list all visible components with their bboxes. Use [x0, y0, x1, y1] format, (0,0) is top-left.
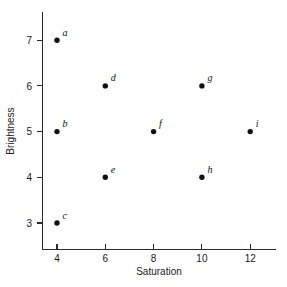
data-point — [54, 129, 59, 134]
data-point — [199, 83, 204, 88]
y-tick-label: 7 — [26, 35, 32, 46]
data-point — [248, 129, 253, 134]
y-axis-title: Brightness — [5, 107, 16, 154]
plot-canvas: 34567 4681012 abcdefghi Saturation Brigh… — [0, 0, 287, 287]
data-point-label: g — [207, 72, 212, 83]
data-point-label: c — [63, 210, 68, 221]
x-tick-label: 10 — [196, 253, 208, 264]
data-point — [199, 175, 204, 180]
y-tick-label: 5 — [26, 126, 32, 137]
data-point-label: h — [207, 164, 212, 175]
scatter-plot-figure: 34567 4681012 abcdefghi Saturation Brigh… — [0, 0, 287, 287]
data-point — [151, 129, 156, 134]
x-tick-label: 8 — [151, 253, 157, 264]
data-point — [54, 220, 59, 225]
data-point — [103, 175, 108, 180]
data-point-label: a — [63, 27, 68, 38]
x-axis-title: Saturation — [136, 266, 182, 277]
data-point-label: b — [63, 118, 68, 129]
x-tick-label: 4 — [54, 253, 60, 264]
x-tick-label: 6 — [103, 253, 109, 264]
y-tick-label: 3 — [26, 218, 32, 229]
y-tick-label: 6 — [26, 81, 32, 92]
data-point — [103, 83, 108, 88]
data-point — [54, 38, 59, 43]
data-point-label: e — [111, 164, 116, 175]
data-point-label: i — [256, 118, 259, 129]
y-tick-label: 4 — [26, 172, 32, 183]
x-tick-label: 12 — [245, 253, 257, 264]
